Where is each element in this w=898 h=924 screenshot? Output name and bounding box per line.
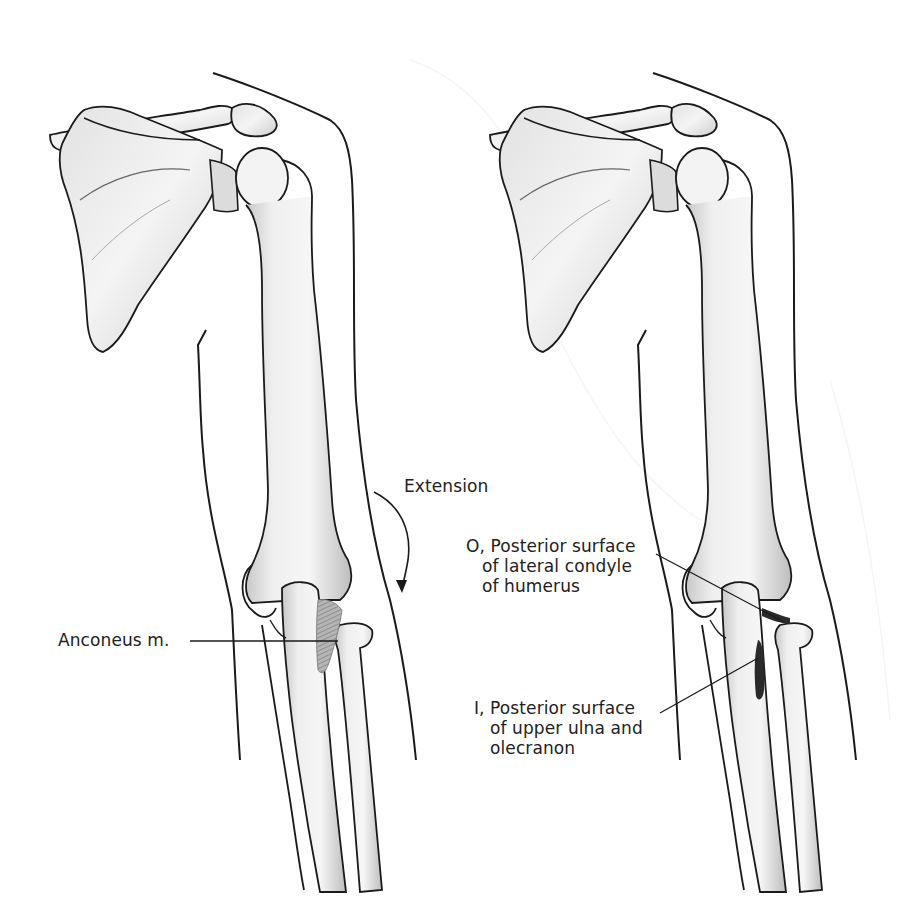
left-arm-figure xyxy=(50,73,416,892)
extension-arrowhead-icon xyxy=(396,580,407,593)
insertion-label-line-3: olecranon xyxy=(474,738,643,758)
anconeus-label: Anconeus m. xyxy=(58,630,169,650)
origin-label: O, Posterior surface of lateral condyle … xyxy=(466,536,636,596)
insertion-label-line-2: of upper ulna and xyxy=(474,718,643,738)
origin-label-line-2: of lateral condyle xyxy=(466,556,636,576)
extension-label: Extension xyxy=(404,476,488,496)
insertion-label-line-1: I, Posterior surface xyxy=(474,698,643,718)
origin-mark xyxy=(762,608,790,624)
origin-label-line-3: of humerus xyxy=(466,576,636,596)
origin-label-line-1: O, Posterior surface xyxy=(466,536,636,556)
anatomy-figure xyxy=(0,0,898,924)
extension-arrow xyxy=(374,492,409,588)
right-arm-figure xyxy=(490,73,856,892)
insertion-label: I, Posterior surface of upper ulna and o… xyxy=(474,698,643,758)
